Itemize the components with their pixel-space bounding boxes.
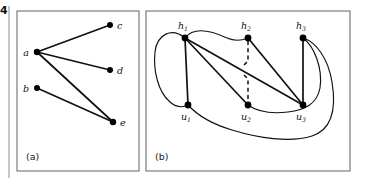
node-sub-h2: 2 (246, 25, 251, 32)
node-e (110, 119, 116, 125)
node-label-b: b (23, 83, 29, 94)
panel-a: a b c d e (a) (17, 11, 139, 171)
node-label-c: c (117, 20, 123, 31)
node-label-e: e (120, 117, 126, 128)
node-label-a: a (23, 47, 29, 58)
node-c (107, 22, 113, 28)
panel-b: h 1 h 2 h 3 u 1 u 2 (146, 11, 350, 171)
node-sub-u2: 2 (246, 116, 251, 123)
figure-svg: 4 a b c d (0, 0, 365, 191)
node-a (34, 49, 40, 55)
panel-b-caption: (b) (155, 151, 168, 162)
node-sub-h3: 3 (302, 25, 306, 32)
node-sub-h1: 1 (184, 25, 188, 32)
node-d (107, 67, 113, 73)
node-b (34, 85, 40, 91)
node-sub-u1: 1 (187, 116, 191, 123)
panel-a-caption: (a) (26, 151, 39, 162)
node-h3 (300, 35, 307, 42)
panel-a-frame (17, 11, 139, 171)
node-h2 (245, 35, 252, 42)
node-label-d: d (117, 65, 123, 76)
node-u1 (185, 102, 192, 109)
node-h1 (182, 35, 189, 42)
node-sub-u3: 3 (302, 116, 306, 123)
node-u2 (245, 102, 252, 109)
node-u3 (300, 102, 307, 109)
figure-container: 4 a b c d (0, 0, 365, 191)
figure-number: 4 (0, 4, 8, 17)
